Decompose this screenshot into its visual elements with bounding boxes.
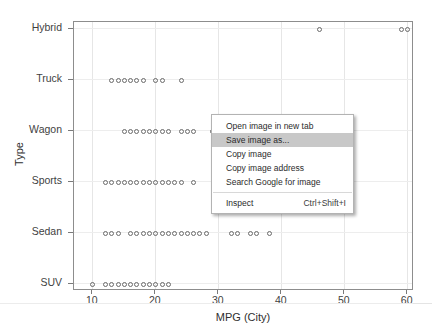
data-point (141, 231, 146, 236)
x-gridline (155, 22, 156, 289)
data-point (166, 282, 171, 287)
x-tick-mark (280, 290, 281, 294)
data-point (248, 231, 253, 236)
y-tick-label: Wagon (0, 124, 62, 135)
data-point (191, 180, 196, 185)
data-point (109, 78, 114, 83)
data-point (116, 282, 121, 287)
x-tick-mark (343, 290, 344, 294)
data-point (153, 129, 158, 134)
context-menu-item-label: Open image in new tab (226, 121, 313, 131)
data-point (160, 282, 165, 287)
data-point (122, 78, 127, 83)
y-tick-mark (68, 283, 73, 284)
data-point (109, 231, 114, 236)
y-tick-mark (68, 79, 73, 80)
data-point (128, 78, 133, 83)
data-point (166, 129, 171, 134)
context-menu-item-label: Copy image (226, 149, 271, 159)
data-point (191, 129, 196, 134)
y-tick-label: SUV (0, 277, 62, 288)
y-tick-mark (68, 181, 73, 182)
y-axis-title: Type (13, 124, 25, 184)
data-point (90, 282, 95, 287)
data-point (179, 231, 184, 236)
x-axis-title: MPG (City) (73, 311, 413, 323)
y-gridline (74, 28, 412, 29)
data-point (109, 180, 114, 185)
y-tick-mark (68, 130, 73, 131)
y-gridline (74, 232, 412, 233)
data-point (204, 231, 209, 236)
data-point (116, 231, 121, 236)
context-menu-item-label: Inspect (226, 198, 253, 208)
data-point (141, 282, 146, 287)
x-tick-label: 40 (266, 294, 296, 306)
data-point (147, 180, 152, 185)
data-point (160, 78, 165, 83)
context-menu-item[interactable]: Copy image address (212, 161, 353, 175)
data-point (116, 78, 121, 83)
data-point (141, 78, 146, 83)
data-point (122, 282, 127, 287)
data-point (128, 180, 133, 185)
data-point (229, 231, 234, 236)
x-tick-mark (217, 290, 218, 294)
data-point (122, 129, 127, 134)
data-point (147, 129, 152, 134)
context-menu-item-label: Copy image address (226, 163, 304, 173)
x-tick-mark (406, 290, 407, 294)
top-cropped-text (0, 0, 432, 11)
x-tick-label: 20 (140, 294, 170, 306)
data-point (166, 231, 171, 236)
data-point (399, 27, 404, 32)
x-tick-label: 50 (329, 294, 359, 306)
data-point (160, 129, 165, 134)
x-gridline (92, 22, 93, 289)
data-point (103, 282, 108, 287)
y-tick-mark (68, 28, 73, 29)
data-point (172, 180, 177, 185)
data-point (116, 180, 121, 185)
screenshot-stage: HybridTruckWagonSportsSedanSUV1020304050… (0, 0, 432, 335)
y-tick-mark (68, 232, 73, 233)
y-tick-label: Sedan (0, 226, 62, 237)
context-menu-item-label: Save image as... (226, 135, 289, 145)
data-point (172, 231, 177, 236)
data-point (128, 231, 133, 236)
image-context-menu[interactable]: Open image in new tabSave image as...Cop… (211, 114, 354, 214)
data-point (153, 180, 158, 185)
data-point (141, 129, 146, 134)
data-point (235, 231, 240, 236)
data-point (122, 180, 127, 185)
data-point (147, 231, 152, 236)
data-point (254, 231, 259, 236)
data-point (103, 180, 108, 185)
x-gridline (407, 22, 408, 289)
x-tick-label: 10 (77, 294, 107, 306)
data-point (185, 129, 190, 134)
data-point (179, 78, 184, 83)
page-right-rule (413, 303, 432, 304)
context-menu-item[interactable]: Save image as... (212, 133, 353, 147)
context-menu-item[interactable]: InspectCtrl+Shift+I (212, 196, 353, 210)
x-tick-label: 60 (392, 294, 422, 306)
data-point (128, 282, 133, 287)
data-point (153, 78, 158, 83)
context-menu-item[interactable]: Copy image (212, 147, 353, 161)
data-point (141, 180, 146, 185)
data-point (109, 282, 114, 287)
x-tick-mark (154, 290, 155, 294)
context-menu-item[interactable]: Search Google for image (212, 175, 353, 189)
data-point (166, 180, 171, 185)
data-point (267, 231, 272, 236)
data-point (128, 129, 133, 134)
data-point (160, 231, 165, 236)
context-menu-item[interactable]: Open image in new tab (212, 119, 353, 133)
data-point (153, 282, 158, 287)
data-point (179, 129, 184, 134)
y-tick-label: Truck (0, 73, 62, 84)
data-point (185, 231, 190, 236)
data-point (153, 231, 158, 236)
page-baseline-rule (0, 303, 432, 304)
